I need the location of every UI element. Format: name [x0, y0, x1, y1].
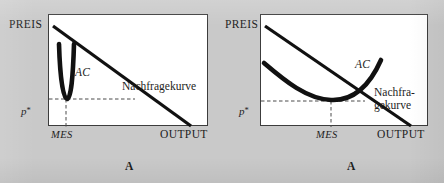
panel-caption: A: [125, 160, 134, 172]
chart-panel-left: PREIS p* AC Nachfragekurve MES OUTPUT A: [0, 0, 222, 183]
chart-panel-right: PREIS p* AC Nachfra- gekurve MES OUTPUT …: [222, 0, 444, 183]
plot-area-left: [48, 14, 208, 126]
panel-caption: A: [347, 160, 356, 172]
mes-tick-label: MES: [316, 129, 338, 140]
demand-curve-annotation: Nachfra- gekurve: [374, 86, 436, 112]
price-star-label: p*: [21, 106, 31, 118]
ac-annotation: AC: [75, 66, 90, 78]
ac-annotation: AC: [355, 58, 370, 70]
average-cost-curve: [59, 44, 74, 99]
price-star-label: p*: [239, 106, 249, 118]
y-axis-label: PREIS: [9, 18, 42, 30]
y-axis-label: PREIS: [225, 18, 258, 30]
plot-svg-left: [49, 15, 209, 127]
mes-tick-label: MES: [51, 129, 73, 140]
economics-figure: PREIS p* AC Nachfragekurve MES OUTPUT A …: [0, 0, 444, 183]
demand-curve-annotation: Nachfragekurve: [122, 80, 196, 92]
demand-curve-annotation-line2: gekurve: [374, 99, 411, 111]
demand-curve-annotation-line1: Nachfra-: [374, 86, 415, 98]
x-axis-label: OUTPUT: [160, 128, 208, 140]
x-axis-label: OUTPUT: [377, 128, 425, 140]
